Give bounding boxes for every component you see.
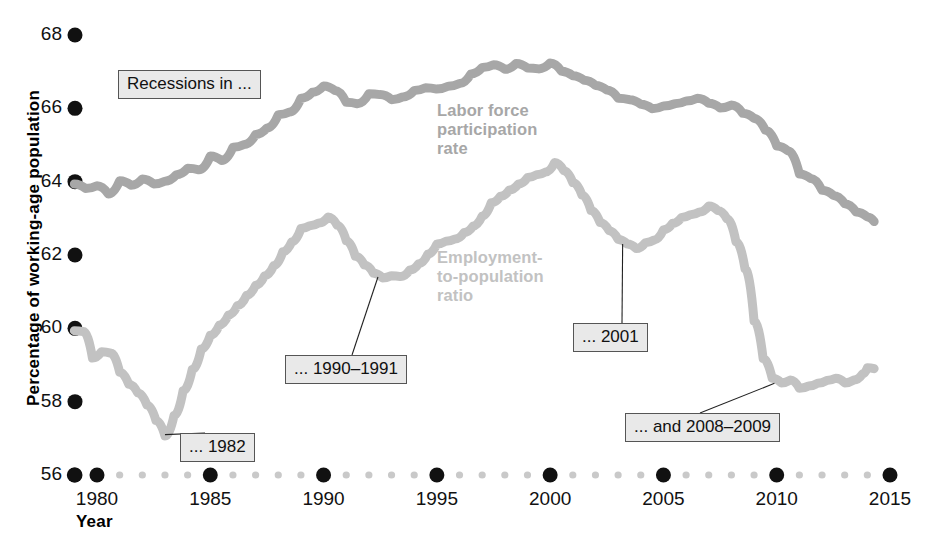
x-tick-major-dot — [203, 468, 218, 483]
x-tick-minor-dot — [365, 471, 372, 478]
x-axis-minor-ticks — [71, 471, 871, 478]
chart-figure: Percentage of working-age population Yea… — [0, 0, 928, 547]
annotation-recession-1990-1991: ... 1990–1991 — [285, 355, 407, 384]
series-label-lfp-line2: participation — [437, 120, 537, 139]
y-tick-dot — [68, 248, 83, 263]
annotation-leader-line — [700, 383, 774, 413]
x-tick-minor-dot — [297, 471, 304, 478]
x-tick-minor-dot — [388, 471, 395, 478]
x-tick-major-dot — [429, 468, 444, 483]
x-tick-minor-dot — [615, 471, 622, 478]
x-tick-minor-dot — [796, 471, 803, 478]
x-tick-minor-dot — [456, 471, 463, 478]
annotation-recessions-header: Recessions in ... — [118, 70, 261, 99]
series-label-labor-force-participation: Labor force participation rate — [437, 101, 537, 158]
x-tick-minor-dot — [682, 471, 689, 478]
x-tick-major-dot — [316, 468, 331, 483]
y-tick-dot — [68, 101, 83, 116]
y-tick-label: 68 — [24, 23, 62, 45]
x-tick-minor-dot — [479, 471, 486, 478]
x-tick-minor-dot — [411, 471, 418, 478]
y-tick-label: 60 — [24, 316, 62, 338]
x-tick-minor-dot — [524, 471, 531, 478]
x-tick-minor-dot — [818, 471, 825, 478]
x-tick-minor-dot — [343, 471, 350, 478]
x-tick-major-dot — [656, 468, 671, 483]
x-tick-minor-dot — [637, 471, 644, 478]
series-label-epop-line1: Employment- — [437, 248, 544, 267]
x-tick-minor-dot — [592, 471, 599, 478]
series-label-epop-line3: ratio — [437, 286, 544, 305]
x-tick-minor-dot — [569, 471, 576, 478]
annotation-recession-1982: ... 1982 — [180, 433, 255, 462]
annotation-recession-2001: ... 2001 — [573, 323, 648, 352]
x-tick-minor-dot — [275, 471, 282, 478]
y-tick-dot — [68, 394, 83, 409]
y-tick-label: 58 — [24, 390, 62, 412]
x-tick-minor-dot — [139, 471, 146, 478]
series-label-epop-line2: to-population — [437, 267, 544, 286]
annotation-leader-line — [352, 277, 378, 355]
y-axis-major-ticks — [68, 28, 83, 483]
x-tick-minor-dot — [864, 471, 871, 478]
y-tick-label: 56 — [24, 463, 62, 485]
x-tick-major-dot — [769, 468, 784, 483]
y-tick-label: 66 — [24, 96, 62, 118]
y-tick-dot — [68, 468, 83, 483]
annotation-leader-line — [622, 244, 623, 323]
x-tick-minor-dot — [841, 471, 848, 478]
y-tick-dot — [68, 28, 83, 43]
series-label-lfp-line3: rate — [437, 139, 537, 158]
x-tick-minor-dot — [184, 471, 191, 478]
y-tick-label: 62 — [24, 243, 62, 265]
x-tick-minor-dot — [252, 471, 259, 478]
x-tick-label: 1985 — [175, 488, 245, 510]
x-tick-major-dot — [543, 468, 558, 483]
x-tick-major-dot — [90, 468, 105, 483]
x-tick-major-dot — [883, 468, 898, 483]
x-tick-minor-dot — [750, 471, 757, 478]
x-tick-minor-dot — [728, 471, 735, 478]
x-tick-label: 1980 — [62, 488, 132, 510]
x-tick-label: 2000 — [515, 488, 585, 510]
x-tick-minor-dot — [229, 471, 236, 478]
x-tick-label: 2015 — [855, 488, 925, 510]
x-tick-minor-dot — [705, 471, 712, 478]
x-tick-label: 1995 — [402, 488, 472, 510]
x-tick-label: 2010 — [742, 488, 812, 510]
annotation-recession-2008-2009: ... and 2008–2009 — [625, 413, 780, 442]
x-tick-minor-dot — [501, 471, 508, 478]
y-tick-label: 64 — [24, 170, 62, 192]
x-tick-label: 2005 — [628, 488, 698, 510]
series-label-employment-to-population: Employment- to-population ratio — [437, 248, 544, 305]
x-tick-minor-dot — [161, 471, 168, 478]
x-tick-minor-dot — [116, 471, 123, 478]
x-tick-label: 1990 — [289, 488, 359, 510]
series-label-lfp-line1: Labor force — [437, 101, 537, 120]
